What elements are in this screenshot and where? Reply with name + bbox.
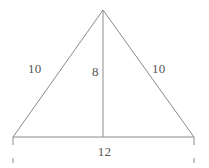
label-left-side: 10 bbox=[28, 62, 41, 75]
triangle-left-side bbox=[13, 10, 103, 137]
triangle-diagram: 10 8 10 12 bbox=[0, 0, 209, 168]
label-base-value: 12 bbox=[94, 144, 115, 159]
label-right-side: 10 bbox=[152, 62, 165, 75]
diagram-canvas bbox=[0, 0, 209, 168]
label-base-dimension: 12 bbox=[0, 145, 209, 158]
triangle-right-side bbox=[103, 10, 194, 137]
label-altitude: 8 bbox=[92, 65, 99, 78]
